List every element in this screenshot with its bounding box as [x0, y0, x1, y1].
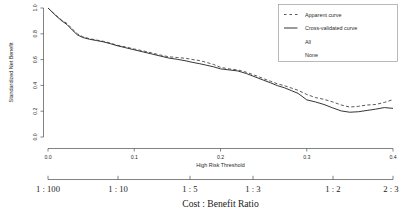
y-tick-label: 1.0 [32, 4, 38, 11]
legend-label-cross-validated: Cross-validated curve [305, 25, 357, 31]
x-tick-label: 0.3 [303, 154, 310, 160]
x-tick-label: 0.2 [217, 154, 224, 160]
y-tick-label: 0.0 [32, 133, 38, 140]
chart-svg: 1.0 0.8 0.6 0.4 0.2 0.0 Standardized Net… [0, 0, 404, 211]
y-tick-label: 0.6 [32, 56, 38, 63]
x-tick-label: 0.1 [131, 154, 138, 160]
ratio-tick-label: 1 : 100 [36, 184, 60, 194]
secondary-axis-title: Cost : Benefit Ratio [182, 198, 259, 209]
y-axis-title: Standardized Net Benefit [8, 42, 14, 102]
decision-curve-chart: 1.0 0.8 0.6 0.4 0.2 0.0 Standardized Net… [0, 0, 404, 211]
y-tick-label: 0.4 [32, 82, 38, 89]
x-tick-label: 0.0 [44, 154, 51, 160]
ratio-tick-label: 1 : 3 [245, 184, 260, 194]
secondary-axis-ticks [48, 176, 393, 180]
legend-label-all: All [305, 39, 311, 45]
x-axis-ticks [48, 149, 393, 152]
y-axis-tick-labels: 1.0 0.8 0.6 0.4 0.2 0.0 [32, 4, 38, 140]
x-axis-tick-labels: 0.0 0.1 0.2 0.3 0.4 [44, 154, 396, 160]
ratio-tick-label: 1 : 10 [108, 184, 128, 194]
x-axis-title: High Risk Threshold [196, 162, 244, 168]
y-axis-ticks [41, 8, 44, 137]
x-tick-label: 0.4 [389, 154, 396, 160]
y-tick-label: 0.8 [32, 30, 38, 37]
legend: Apparent curve Cross-validated curve All… [279, 5, 398, 62]
secondary-axis-tick-labels: 1 : 100 1 : 10 1 : 5 1 : 3 1 : 2 2 : 3 [36, 184, 399, 194]
ratio-tick-label: 1 : 2 [325, 184, 340, 194]
legend-label-apparent: Apparent curve [305, 12, 342, 18]
y-tick-label: 0.2 [32, 107, 38, 114]
legend-label-none: None [305, 52, 318, 58]
ratio-tick-label: 1 : 5 [182, 184, 197, 194]
ratio-tick-label: 2 : 3 [383, 184, 398, 194]
